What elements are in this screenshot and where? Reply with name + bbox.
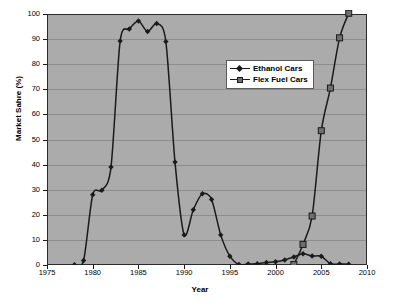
data-point-diamond <box>245 261 250 266</box>
legend[interactable]: Ethanol Cars Flex Fuel Cars <box>226 60 314 89</box>
data-point-diamond <box>191 207 196 212</box>
legend-item-flex-fuel-cars[interactable]: Flex Fuel Cars <box>230 74 308 85</box>
series-flex-fuel-cars <box>291 10 352 267</box>
data-point-diamond <box>309 253 314 258</box>
data-point-square <box>300 241 306 247</box>
data-point-diamond <box>181 232 186 237</box>
data-point-diamond <box>172 159 177 164</box>
data-point-diamond <box>337 261 342 266</box>
series-line <box>74 21 348 266</box>
legend-label-ethanol-cars: Ethanol Cars <box>253 64 302 73</box>
data-point-square <box>346 10 352 16</box>
data-point-diamond <box>218 232 223 237</box>
data-series-layer <box>0 0 400 307</box>
data-point-diamond <box>255 261 260 266</box>
data-point-diamond <box>282 257 287 262</box>
data-point-diamond <box>81 258 86 263</box>
data-point-diamond <box>72 262 77 267</box>
data-point-diamond <box>346 262 351 267</box>
data-point-diamond <box>264 260 269 265</box>
data-point-diamond <box>108 164 113 169</box>
data-point-diamond <box>117 38 122 43</box>
data-point-diamond <box>236 262 241 267</box>
data-point-diamond <box>273 259 278 264</box>
data-point-diamond <box>154 21 159 26</box>
square-marker-icon <box>230 75 250 85</box>
data-point-square <box>337 35 343 41</box>
series-line <box>294 13 349 264</box>
data-point-square <box>318 128 324 134</box>
data-point-square <box>327 85 333 91</box>
data-point-diamond <box>300 251 305 256</box>
diamond-marker-icon <box>230 64 250 74</box>
data-point-diamond <box>90 192 95 197</box>
legend-label-flex-fuel-cars: Flex Fuel Cars <box>253 75 308 84</box>
data-point-diamond <box>163 39 168 44</box>
legend-item-ethanol-cars[interactable]: Ethanol Cars <box>230 63 308 74</box>
data-point-square <box>309 213 315 219</box>
chart-figure: 0102030405060708090100 Market Sahre (%) … <box>0 0 400 307</box>
data-point-square <box>291 262 297 268</box>
data-point-diamond <box>209 197 214 202</box>
